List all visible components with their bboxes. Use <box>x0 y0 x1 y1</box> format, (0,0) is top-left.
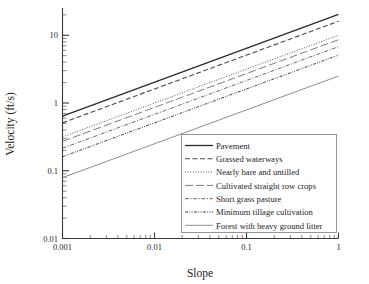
y-tick-label: 10 <box>50 30 59 40</box>
legend: PavementGrassed waterwaysNearly bare and… <box>182 135 337 233</box>
series-line-1 <box>63 21 339 123</box>
legend-label-0: Pavement <box>216 141 251 151</box>
series-line-0 <box>63 14 339 116</box>
y-tick-label: 1 <box>54 98 58 108</box>
legend-label-3: Cultivated straight row crops <box>216 181 317 191</box>
x-tick-label: 1 <box>336 242 340 252</box>
velocity-vs-slope-chart: 0.0010.010.11 0.010.1110 Slope Velocity … <box>0 0 369 284</box>
x-tick-label: 0.001 <box>53 242 72 252</box>
series-line-4 <box>63 47 339 149</box>
y-tick-label: 0.01 <box>43 234 58 244</box>
x-tick-labels: 0.0010.010.11 <box>53 242 341 252</box>
x-tick-label: 0.01 <box>147 242 162 252</box>
series-line-2 <box>63 35 339 137</box>
chart-svg: 0.0010.010.11 0.010.1110 Slope Velocity … <box>0 0 369 284</box>
y-tick-label: 0.1 <box>47 166 58 176</box>
series-line-3 <box>63 40 339 142</box>
x-axis-title: Slope <box>187 267 213 280</box>
legend-label-2: Nearly bare and untilled <box>216 167 300 177</box>
y-tick-labels: 0.010.1110 <box>43 30 58 243</box>
x-tick-label: 0.1 <box>241 242 252 252</box>
legend-label-1: Grassed waterways <box>216 154 283 164</box>
legend-label-5: Minimum tillage cultivation <box>216 207 314 217</box>
y-axis-title: Velocity (ft/s) <box>4 92 17 156</box>
legend-label-4: Short grass pasture <box>216 194 282 204</box>
legend-label-6: Forest with heavy ground litter <box>216 221 323 231</box>
